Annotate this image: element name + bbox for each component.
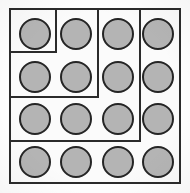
circle-r1c2: [60, 18, 92, 50]
partition-right-column-vertical: [139, 8, 141, 142]
circle-r1c3: [102, 18, 134, 50]
circle-r2c1: [19, 61, 51, 93]
partition-upper-mid-vertical: [97, 8, 99, 98]
circle-r4c1: [19, 146, 51, 178]
circle-r3c3: [102, 103, 134, 135]
circle-r2c3: [102, 61, 134, 93]
partition-lower-horizontal: [9, 140, 141, 142]
partition-small-box-right-edge: [55, 8, 57, 53]
partition-small-box-bottom-edge: [9, 51, 57, 53]
circle-r2c2: [60, 61, 92, 93]
circle-r1c1: [19, 18, 51, 50]
circle-r4c2: [60, 146, 92, 178]
circle-r4c3: [102, 146, 134, 178]
circle-r1c4: [142, 18, 174, 50]
circle-r3c1: [19, 103, 51, 135]
circle-r4c4: [142, 146, 174, 178]
partition-upper-left-horizontal: [9, 96, 99, 98]
circle-r2c4: [142, 61, 174, 93]
circle-r3c2: [60, 103, 92, 135]
circle-r3c4: [142, 103, 174, 135]
figure-canvas: [0, 0, 190, 193]
